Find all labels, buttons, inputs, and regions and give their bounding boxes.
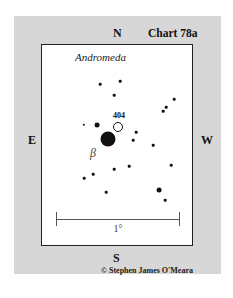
scale-bar (56, 219, 179, 220)
star (105, 191, 108, 194)
chart-title: Chart 78a (148, 27, 198, 39)
scale-bar-left-tick (56, 212, 57, 226)
constellation-label: Andromeda (75, 51, 126, 63)
star (99, 83, 102, 86)
beta-label: β (90, 147, 96, 159)
object-404-label: 404 (113, 112, 125, 120)
star (164, 199, 167, 202)
beta-star (101, 132, 116, 147)
star (170, 164, 173, 167)
east-label: E (28, 134, 36, 146)
star (113, 168, 116, 171)
star (83, 177, 86, 180)
west-label: W (201, 134, 213, 146)
star (113, 94, 116, 97)
star (95, 123, 100, 128)
star (173, 98, 176, 101)
star (135, 131, 138, 134)
star (165, 106, 168, 109)
star (128, 165, 131, 168)
north-label: N (113, 27, 122, 39)
object-404-marker (113, 122, 123, 132)
copyright: © Stephen James O'Meara (101, 266, 193, 275)
scale-bar-right-tick (179, 212, 180, 226)
star (152, 144, 155, 147)
star (92, 173, 95, 176)
scale-label: 1° (114, 224, 123, 234)
south-label: S (113, 252, 120, 264)
star (157, 188, 162, 193)
star-field (41, 44, 193, 246)
star (162, 110, 165, 113)
star (132, 139, 135, 142)
star (119, 80, 122, 83)
